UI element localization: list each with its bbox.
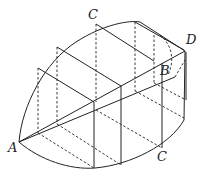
section-top-3 bbox=[96, 24, 154, 61]
solid-figure bbox=[0, 0, 207, 178]
upper-boundary-curve bbox=[19, 22, 185, 142]
label-C-top: C bbox=[88, 8, 98, 21]
label-C-bottom: C bbox=[157, 150, 167, 163]
label-B: B bbox=[160, 64, 170, 77]
line-A-B bbox=[19, 77, 175, 142]
section-top-2 bbox=[57, 47, 121, 86]
label-D: D bbox=[186, 33, 196, 46]
section-top-1 bbox=[38, 68, 94, 102]
hidden-base-5 bbox=[154, 83, 186, 100]
diagram-canvas: A B C C D bbox=[0, 0, 207, 178]
hidden-base-4 bbox=[135, 91, 184, 118]
hidden-base-1 bbox=[38, 133, 94, 168]
hidden-line-BD bbox=[175, 60, 185, 77]
top-edge-double bbox=[135, 22, 184, 50]
hidden-base-3 bbox=[96, 110, 162, 148]
hidden-base-2 bbox=[57, 124, 121, 165]
label-A: A bbox=[8, 141, 17, 154]
